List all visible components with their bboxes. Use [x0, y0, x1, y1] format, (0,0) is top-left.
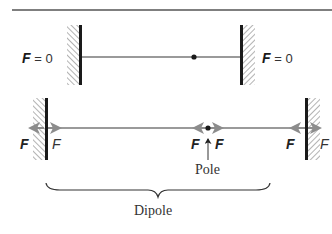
- force-symbol: F: [22, 50, 31, 66]
- top-right-force-label: F = 0: [262, 50, 293, 66]
- top-left-force-label: F = 0: [22, 50, 53, 66]
- equals-zero: = 0: [271, 51, 293, 66]
- force-label-right-wall-outer: F: [320, 137, 329, 151]
- force-symbol: F: [262, 50, 271, 66]
- pole-label: Pole: [195, 163, 220, 177]
- force-label-right-wall-inner: F: [286, 137, 295, 151]
- dipole-brace: [46, 183, 270, 197]
- force-label-left-wall-inner: F: [52, 137, 61, 151]
- top-left-wall: [67, 25, 82, 85]
- force-label-left-wall-outer: F: [20, 137, 29, 151]
- top-right-wall: [240, 25, 255, 85]
- diagram-canvas: [0, 0, 332, 234]
- force-label-pole-left: F: [191, 137, 200, 151]
- top-pole-dot: [191, 54, 196, 59]
- bottom-pole-dot: [205, 125, 210, 130]
- dipole-label: Dipole: [134, 204, 172, 218]
- force-label-pole-right: F: [215, 137, 224, 151]
- equals-zero: = 0: [31, 51, 53, 66]
